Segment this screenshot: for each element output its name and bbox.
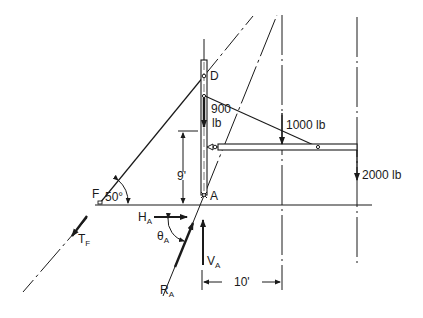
label-2000lb: 2000 lb (362, 168, 402, 182)
label-10ft: 10' (234, 275, 250, 289)
label-900: 900 (211, 102, 231, 116)
label-TF: TF (78, 232, 90, 248)
label-A: A (210, 189, 218, 203)
label-9ft: 9' (177, 169, 186, 183)
point-D-pin (202, 74, 206, 78)
point-A-circle (203, 194, 206, 197)
horizontal-beam (218, 144, 357, 150)
cable-FD (100, 76, 204, 203)
beam-cable-pin (316, 145, 319, 148)
force-RA-arrow (175, 223, 193, 267)
label-1000lb: 1000 lb (286, 118, 326, 132)
label-HA: HA (138, 210, 153, 226)
label-F: F (92, 187, 99, 201)
label-RA: RA (160, 283, 175, 299)
beam-hinge-pin (213, 145, 217, 149)
label-50deg: 50° (105, 190, 123, 204)
point-F-anchor (98, 201, 102, 204)
angle-thetaA-arc (168, 218, 184, 241)
label-thetaA: θA (157, 229, 170, 245)
label-D: D (210, 69, 219, 83)
label-VA: VA (207, 254, 221, 270)
free-body-diagram: D 900 lb 1000 lb 2000 lb A F 50° 9' 10' … (0, 0, 423, 318)
label-lb: lb (212, 116, 222, 130)
cable-line-upper-dashed (204, 16, 253, 76)
